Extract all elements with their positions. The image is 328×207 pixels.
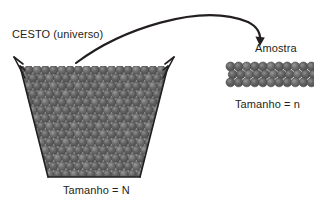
basket-ball-fill [8, 66, 178, 179]
sample-ball-block [226, 62, 326, 87]
basket-title-label: CESTO (universo) [12, 28, 103, 41]
diagram-canvas: CESTO (universo) Tamanho = N Amostra Tam… [0, 0, 328, 207]
transfer-arrow [76, 15, 265, 63]
basket-size-label: Tamanho = N [63, 184, 130, 197]
sample-title-label: Amostra [255, 42, 297, 55]
sample-size-label: Tamanho = n [235, 98, 300, 111]
